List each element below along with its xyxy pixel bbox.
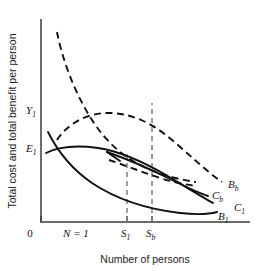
y-tick-label-y1: Y1 (26, 104, 36, 119)
y-tick-label-e1-subscript: 1 (33, 148, 37, 157)
curve-cb-solid (107, 152, 208, 196)
y-tick-label-e1: E1 (25, 142, 37, 157)
x-tick-label-sb-subscript: b (152, 233, 156, 242)
chart-figure: Total cost and total benefit per person … (0, 0, 268, 271)
x-tick-label-sb: Sb (146, 227, 156, 242)
x-tick-label-s1: S1 (121, 227, 130, 242)
curve-label-cb: Cb (212, 189, 223, 204)
curve-label-bb: Bb (228, 178, 239, 193)
curve-label-bb-subscript: b (235, 184, 239, 193)
y-axis-title: Total cost and total benefit per person (6, 33, 18, 208)
chart-plot-area: Total cost and total benefit per person … (0, 0, 268, 271)
origin-label: 0 (27, 227, 33, 239)
curve-label-cb-subscript: b (219, 195, 223, 204)
curve-c1-solid (48, 132, 217, 214)
x-tick-label-s1-subscript: 1 (127, 233, 131, 242)
y-tick-label-y1-subscript: 1 (32, 110, 36, 119)
curve-label-c1: C1 (234, 201, 245, 216)
x-axis-title: Number of persons (100, 253, 189, 265)
curve-label-c1-subscript: 1 (241, 207, 245, 216)
curve-label-b1-subscript: 1 (225, 216, 229, 225)
x-tick-label-n-equals-1: N = 1 (62, 227, 89, 239)
